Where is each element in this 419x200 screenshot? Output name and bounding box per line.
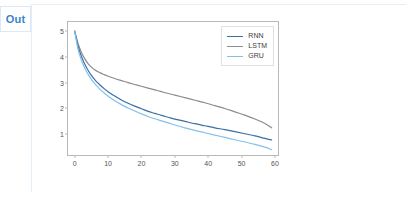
x-axis-tick-mark [74, 155, 75, 158]
x-axis-tick-mark [241, 155, 242, 158]
x-axis-tick-label: 50 [238, 160, 246, 167]
x-axis-tick-mark [274, 155, 275, 158]
output-prompt-label: Out [6, 13, 26, 25]
y-axis-tick-label: 4 [60, 53, 64, 60]
x-axis-tick-mark [141, 155, 142, 158]
x-axis-tick-mark [108, 155, 109, 158]
x-axis-tick-label: 60 [271, 160, 279, 167]
legend-label-rnn: RNN [248, 31, 263, 41]
matplotlib-figure: RNNLSTMGRU 123450102030405060 [32, 5, 407, 193]
plot-axes: RNNLSTMGRU 123450102030405060 [67, 21, 279, 156]
legend-item-lstm: LSTM [227, 41, 267, 51]
x-axis-tick-label: 20 [138, 160, 146, 167]
x-axis-tick-mark [174, 155, 175, 158]
legend-swatch-lstm [227, 46, 243, 47]
legend-label-gru: GRU [248, 51, 264, 61]
notebook-output-cell: Out RNNLSTMGRU 123450102030405060 [0, 0, 419, 200]
x-axis-tick-label: 40 [204, 160, 212, 167]
y-axis-tick-label: 3 [60, 79, 64, 86]
x-axis-tick-mark [208, 155, 209, 158]
y-axis-tick-label: 2 [60, 105, 64, 112]
y-axis-tick-mark [65, 108, 68, 109]
output-card: RNNLSTMGRU 123450102030405060 [31, 4, 406, 192]
y-axis-tick-label: 5 [60, 28, 64, 35]
y-axis-tick-label: 1 [60, 131, 64, 138]
legend-label-lstm: LSTM [248, 41, 267, 51]
x-axis-tick-label: 0 [73, 160, 77, 167]
x-axis-tick-label: 10 [104, 160, 112, 167]
legend-swatch-rnn [227, 36, 243, 37]
chart-legend: RNNLSTMGRU [221, 26, 274, 66]
y-axis-tick-mark [65, 134, 68, 135]
legend-item-rnn: RNN [227, 31, 267, 41]
y-axis-tick-mark [65, 82, 68, 83]
legend-item-gru: GRU [227, 51, 267, 61]
y-axis-tick-mark [65, 56, 68, 57]
output-prompt: Out [0, 6, 31, 32]
y-axis-tick-mark [65, 31, 68, 32]
x-axis-tick-label: 30 [171, 160, 179, 167]
legend-swatch-gru [227, 56, 243, 57]
